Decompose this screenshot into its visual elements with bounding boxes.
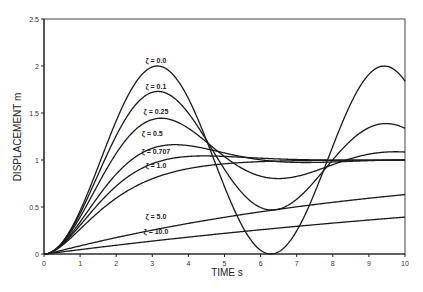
- x-tick-label: 5: [223, 260, 227, 267]
- x-tick-label: 8: [331, 260, 335, 267]
- x-axis-ticks: 012345678910: [42, 254, 409, 267]
- curve-label: ζ = 0.0: [145, 57, 166, 65]
- y-tick-label: 2: [35, 63, 39, 70]
- x-tick-label: 6: [259, 260, 263, 267]
- curve-label: ζ = 1.0: [145, 162, 166, 170]
- curve-label: ζ = 0.25: [143, 108, 168, 116]
- curve-label: ζ = 5.0: [145, 213, 166, 221]
- x-tick-label: 2: [114, 260, 118, 267]
- x-tick-label: 7: [295, 260, 299, 267]
- curve-zeta-0_5: [44, 145, 405, 254]
- x-tick-label: 4: [186, 260, 190, 267]
- curve-zeta-0_1: [44, 91, 405, 254]
- curve-label: ζ = 0.707: [142, 148, 171, 156]
- x-tick-label: 10: [401, 260, 409, 267]
- x-tick-label: 3: [150, 260, 154, 267]
- curve-label: ζ = 10.0: [143, 228, 168, 236]
- curve-zeta-10: [44, 217, 405, 254]
- x-tick-label: 0: [42, 260, 46, 267]
- y-tick-label: 0.5: [29, 204, 39, 211]
- curve-label: ζ = 0.5: [142, 130, 163, 138]
- response-curves: [44, 66, 405, 254]
- plot-frame: [44, 19, 405, 254]
- y-tick-label: 0: [35, 251, 39, 258]
- y-axis-title: DISPLACEMENT m: [12, 93, 23, 182]
- step-response-chart: ζ = 0.0ζ = 0.1ζ = 0.25ζ = 0.5ζ = 0.707ζ …: [0, 0, 423, 292]
- curve-zeta-0_707: [44, 156, 405, 254]
- curve-label: ζ = 0.1: [145, 83, 166, 91]
- x-tick-label: 9: [367, 260, 371, 267]
- y-tick-label: 2.5: [29, 16, 39, 23]
- y-axis-ticks: 00.511.522.5: [29, 16, 44, 258]
- y-tick-label: 1.5: [29, 110, 39, 117]
- y-tick-label: 1: [35, 157, 39, 164]
- x-tick-label: 1: [78, 260, 82, 267]
- x-axis-title: TIME s: [211, 267, 243, 278]
